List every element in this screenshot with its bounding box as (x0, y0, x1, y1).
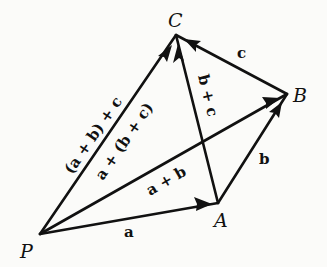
vector-label-b: b (259, 150, 270, 168)
point-label-a: A (212, 209, 228, 231)
vector-sum-p-to-c (40, 35, 176, 234)
diagram-svg: P A B C a b c a + b b + c (a + b) + c a … (0, 0, 327, 267)
vector-addition-diagram: P A B C a b c a + b b + c (a + b) + c a … (0, 0, 327, 267)
point-label-c: C (168, 9, 183, 31)
vector-label-a-plus-b: a + b (143, 162, 189, 199)
vector-label-a: a (124, 223, 134, 241)
vector-label-b-plus-c: b + c (194, 73, 222, 119)
vector-label-c: c (237, 44, 246, 62)
arrowhead-a-icon (194, 197, 212, 211)
point-label-b: B (292, 84, 307, 106)
point-label-p: P (19, 240, 34, 262)
